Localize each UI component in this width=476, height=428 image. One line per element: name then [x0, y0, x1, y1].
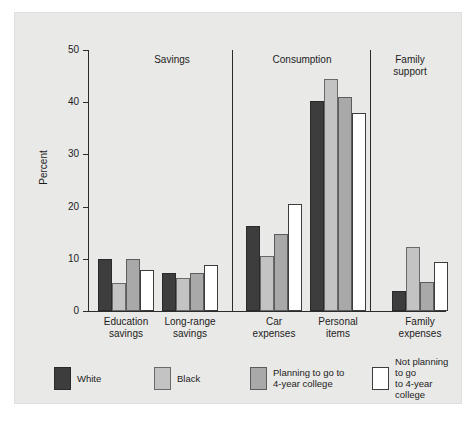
bar-black-5[interactable]	[406, 247, 420, 311]
category-label-5-line1: Family	[375, 316, 465, 328]
legend-item-black[interactable]: Black	[154, 367, 200, 390]
bars-container	[162, 50, 218, 311]
section-divider-1	[232, 50, 233, 311]
bar-planning-3[interactable]	[274, 234, 288, 311]
legend-label-planning-line1: Planning to go to	[273, 367, 344, 378]
bar-notplanning-4[interactable]	[352, 113, 366, 311]
category-label-5-line2: expenses	[375, 328, 465, 340]
y-axis-title: Percent	[38, 123, 49, 213]
y-axis-line	[88, 50, 89, 311]
bar-notplanning-2[interactable]	[204, 265, 218, 311]
bars-container	[310, 50, 366, 311]
y-tick-0	[83, 311, 88, 312]
bar-notplanning-1[interactable]	[140, 270, 154, 311]
legend-swatch-black	[154, 367, 171, 390]
bar-black-3[interactable]	[260, 256, 274, 311]
bars-container	[246, 50, 302, 311]
y-tick-label-20: 20	[39, 201, 79, 212]
bar-white-4[interactable]	[310, 101, 324, 311]
y-tick-label-0: 0	[39, 305, 79, 316]
category-label-4-line2: items	[293, 328, 383, 340]
plot-area: Percent 50403020100 Savings Consumption …	[14, 12, 462, 404]
bar-notplanning-5[interactable]	[434, 262, 448, 311]
legend-label-black: Black	[177, 373, 200, 384]
bar-white-1[interactable]	[98, 259, 112, 311]
bar-white-5[interactable]	[392, 291, 406, 311]
x-axis-line	[88, 311, 446, 312]
legend-swatch-planning	[250, 367, 267, 390]
bar-black-2[interactable]	[176, 278, 190, 311]
y-tick-50	[83, 50, 88, 51]
legend-label-white: White	[77, 373, 101, 384]
category-label-2-line1: Long-range	[145, 316, 235, 328]
legend-item-planning[interactable]: Planning to go to4-year college	[250, 367, 344, 390]
bars-container	[98, 50, 154, 311]
legend-label-notplanning-line2: to 4-year college	[395, 378, 454, 400]
bar-white-2[interactable]	[162, 273, 176, 311]
y-tick-label-30: 30	[39, 148, 79, 159]
y-tick-label-40: 40	[39, 96, 79, 107]
legend-label-planning-line2: 4-year college	[273, 378, 344, 389]
y-tick-label-50: 50	[39, 44, 79, 55]
figure-panel: Percent 50403020100 Savings Consumption …	[14, 12, 462, 404]
section-divider-2	[370, 50, 371, 311]
bar-planning-4[interactable]	[338, 97, 352, 311]
y-tick-40	[83, 102, 88, 103]
bar-planning-1[interactable]	[126, 259, 140, 311]
legend-label-notplanning-line1: Not planning to go	[395, 356, 454, 378]
y-tick-10	[83, 259, 88, 260]
category-label-4-line1: Personal	[293, 316, 383, 328]
bar-planning-5[interactable]	[420, 282, 434, 311]
category-label-5: Familyexpenses	[375, 316, 465, 340]
bar-notplanning-3[interactable]	[288, 204, 302, 311]
bars-container	[392, 50, 448, 311]
legend-swatch-white	[54, 367, 71, 390]
legend-label-planning: Planning to go to4-year college	[273, 367, 344, 389]
category-label-2: Long-rangesavings	[145, 316, 235, 340]
category-label-4: Personalitems	[293, 316, 383, 340]
bar-black-4[interactable]	[324, 79, 338, 311]
bar-black-1[interactable]	[112, 283, 126, 311]
category-label-2-line2: savings	[145, 328, 235, 340]
y-tick-30	[83, 154, 88, 155]
legend-swatch-notplanning	[372, 367, 389, 390]
y-tick-label-10: 10	[39, 253, 79, 264]
bar-planning-2[interactable]	[190, 273, 204, 311]
legend-label-white-line1: White	[77, 373, 101, 384]
legend-item-notplanning[interactable]: Not planning to goto 4-year college	[372, 356, 454, 400]
chart-legend: WhiteBlackPlanning to go to4-year colleg…	[54, 360, 454, 396]
legend-label-notplanning: Not planning to goto 4-year college	[395, 356, 454, 400]
bar-white-3[interactable]	[246, 226, 260, 311]
y-tick-20	[83, 207, 88, 208]
legend-label-black-line1: Black	[177, 373, 200, 384]
legend-item-white[interactable]: White	[54, 367, 101, 390]
